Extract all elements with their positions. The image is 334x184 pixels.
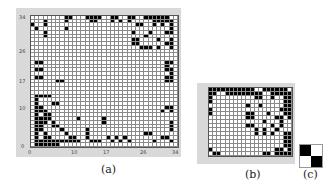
checker-cell — [311, 156, 322, 167]
checker-cell — [300, 145, 311, 156]
x-tick-17: 17 — [103, 149, 109, 155]
x-tick-34: 34 — [172, 149, 178, 155]
y-tick-17: 17 — [19, 78, 25, 84]
matrix-cell — [174, 143, 178, 147]
x-tick-0: 0 — [28, 149, 31, 155]
caption-b: (b) — [245, 168, 261, 181]
caption-c: (c) — [303, 168, 318, 181]
y-tick-0: 0 — [21, 143, 24, 149]
y-tick-34: 34 — [19, 14, 25, 20]
x-tick-10: 10 — [71, 149, 77, 155]
panel-c-checker-grid — [299, 144, 323, 168]
checker-cell — [311, 145, 322, 156]
checker-cell — [300, 156, 311, 167]
matrix-cell — [288, 152, 292, 156]
caption-a: (a) — [101, 163, 116, 176]
panel-a-matrix-grid — [30, 15, 179, 148]
y-tick-10: 10 — [19, 105, 25, 111]
x-tick-26: 26 — [140, 149, 146, 155]
panel-b-matrix-grid — [208, 87, 293, 157]
y-tick-26: 26 — [19, 48, 25, 54]
